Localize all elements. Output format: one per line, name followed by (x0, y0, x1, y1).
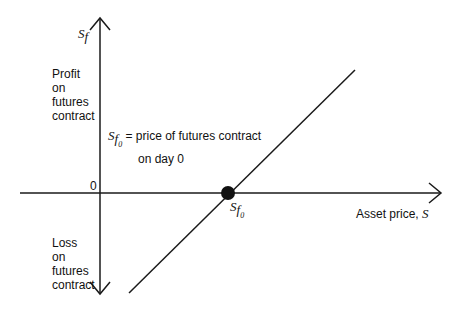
loss-label: Loss on futures contract (52, 236, 95, 292)
point-label: Sf0 (230, 200, 244, 223)
payoff-line (129, 70, 355, 293)
origin-label: 0 (90, 179, 97, 193)
definition-label: Sf0 = price of futures contract on day 0 (108, 129, 261, 166)
profit-label: Profit on futures contract (52, 67, 95, 123)
break-even-point (221, 186, 235, 200)
x-axis-label: Asset price, S (356, 207, 429, 221)
y-axis-label: Sf (78, 27, 88, 44)
